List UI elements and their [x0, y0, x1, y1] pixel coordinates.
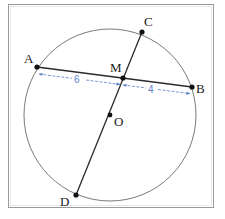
dimension-am-label: 6 — [74, 74, 80, 85]
label-o: O — [114, 114, 123, 129]
diagram-frame — [9, 5, 214, 208]
point-a — [34, 64, 39, 69]
point-c — [139, 29, 144, 34]
label-d: D — [60, 194, 69, 209]
point-d — [73, 192, 78, 197]
label-a: A — [24, 51, 34, 66]
label-b: B — [196, 81, 205, 96]
label-m: M — [110, 60, 122, 75]
point-o — [108, 113, 113, 118]
point-b — [189, 84, 194, 89]
label-c: C — [144, 14, 153, 29]
dimension-mb-label: 4 — [148, 84, 154, 95]
point-m — [120, 75, 125, 80]
circle-chord-diagram: 6 4 A B C D M O — [0, 0, 225, 219]
